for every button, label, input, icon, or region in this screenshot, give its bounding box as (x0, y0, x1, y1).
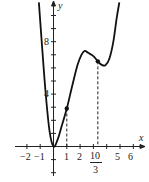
x-tick-label-6: 6 (128, 152, 133, 162)
fraction-bar (90, 162, 102, 163)
y-tick-label-8: 8 (44, 37, 49, 47)
x-tick-label-neg2: −2 (20, 152, 31, 162)
x-tick-label-1: 1 (64, 152, 69, 162)
y-tick-label-4: 4 (44, 89, 49, 99)
x-tick-label-2: 2 (77, 152, 82, 162)
function-curve (39, 2, 119, 146)
x-tick-label-neg1: −1 (34, 152, 45, 162)
x-tick-label-5: 5 (115, 152, 120, 162)
y-axis-arrow-icon (52, 1, 56, 6)
marked-point (96, 59, 100, 63)
x-tick-label-frac-num: 10 (90, 151, 100, 161)
y-axis-label: y (58, 1, 62, 11)
x-axis-arrow-icon (140, 145, 145, 149)
marked-point (65, 106, 69, 110)
x-tick-label-frac-den: 3 (93, 165, 98, 175)
x-axis-label: x (139, 133, 143, 143)
